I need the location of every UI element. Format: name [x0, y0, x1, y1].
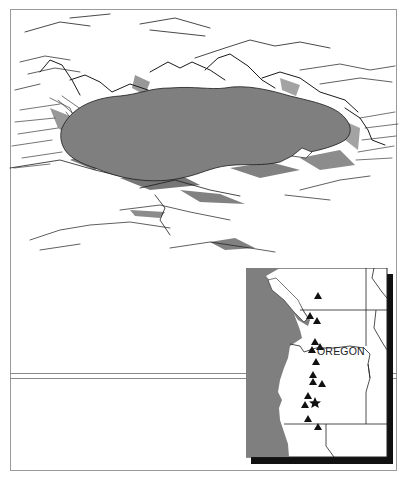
horizontal-rule-lower [10, 378, 246, 379]
state-label-oregon: OREGON [317, 345, 365, 357]
lake [61, 87, 350, 181]
crater-lake-illustration [0, 0, 409, 270]
horizontal-rule-upper [10, 373, 246, 374]
inset-map [246, 268, 396, 468]
